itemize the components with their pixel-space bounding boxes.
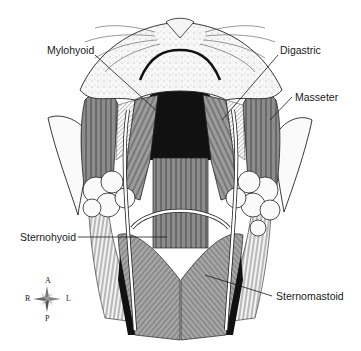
label-masseter: Masseter [295, 92, 338, 103]
label-sternomastoid: Sternomastoid [276, 291, 344, 302]
label-mylohyoid: Mylohyoid [47, 45, 94, 56]
compass-rose-icon [33, 286, 61, 312]
label-digastric: Digastric [280, 45, 321, 56]
compass-left: L [66, 295, 71, 303]
label-sternohyoid: Sternohyoid [20, 232, 76, 243]
compass-anterior: A [45, 277, 51, 285]
anatomy-diagram: Mylohyoid Digastric Masseter Sternohyoid… [0, 0, 361, 351]
sternohyoid-muscle [153, 158, 208, 248]
compass-posterior: P [45, 315, 49, 323]
compass-right: R [25, 295, 30, 303]
